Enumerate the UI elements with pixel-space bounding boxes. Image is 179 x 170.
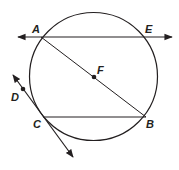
- geometry-diagram: A E F B C D: [0, 0, 179, 170]
- point-F: [92, 75, 97, 80]
- label-B: B: [146, 118, 154, 130]
- label-C: C: [33, 118, 42, 130]
- label-A: A: [31, 23, 40, 35]
- label-D: D: [11, 91, 19, 103]
- point-D: [21, 87, 26, 92]
- label-F: F: [97, 64, 104, 76]
- label-E: E: [145, 23, 153, 35]
